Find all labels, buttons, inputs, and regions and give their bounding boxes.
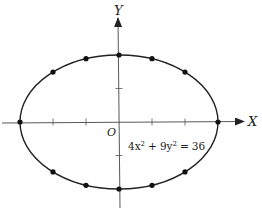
ellipse-point (83, 56, 88, 61)
origin-label: O (107, 126, 116, 139)
ellipse-point (149, 56, 154, 61)
ellipse-point (149, 183, 154, 188)
equation-label: 4x2+9y2=36 (128, 140, 205, 152)
ellipse-point (50, 69, 55, 74)
x-axis (2, 122, 244, 124)
x-axis-label: X (247, 114, 258, 129)
ellipse-point (215, 119, 220, 124)
ellipse-point (182, 69, 187, 74)
y-axis (118, 18, 120, 208)
ellipse-point (116, 186, 121, 191)
ellipse-point (182, 169, 187, 174)
ellipse-diagram: Y X O 4x2+9y2=36 (0, 0, 262, 217)
ellipse-point (83, 183, 88, 188)
y-axis-label: Y (114, 3, 124, 18)
ellipse-point (116, 52, 121, 57)
ellipse-point (50, 169, 55, 174)
ellipse-point (17, 119, 22, 124)
